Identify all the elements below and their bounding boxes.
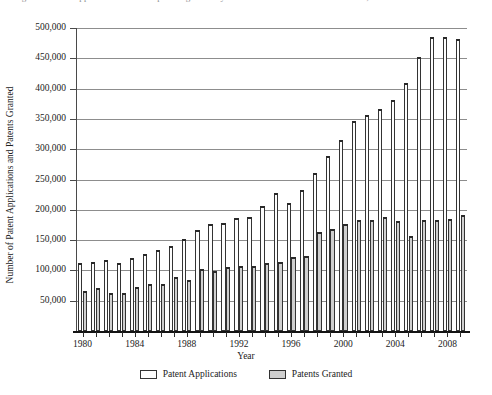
- x-axis-tick: [395, 332, 396, 337]
- bar-cap: [148, 284, 152, 286]
- gridline: [76, 119, 467, 120]
- y-axis-tick-label-text: 350,000: [4, 114, 66, 124]
- bar-cap: [239, 266, 243, 268]
- bar-applications-1987: [169, 246, 173, 331]
- bar-applications-2006: [417, 57, 421, 331]
- gridline: [76, 180, 467, 181]
- bar-applications-1982: [104, 260, 108, 332]
- x-axis-tick: [122, 332, 123, 337]
- bar-applications-1995: [274, 193, 278, 331]
- bar-applications-2003: [378, 109, 382, 331]
- bar-applications-2001: [352, 121, 356, 331]
- bar-cap: [313, 173, 317, 175]
- y-axis-tick-label-text: 150,000: [4, 235, 66, 245]
- bar-cap: [417, 57, 421, 59]
- bar-cap: [396, 221, 400, 223]
- y-axis-tick-label: 300,000: [0, 144, 66, 154]
- bar-applications-1984: [130, 258, 134, 331]
- x-axis-tick: [109, 332, 110, 337]
- bar-granted-1985: [148, 284, 152, 331]
- bar-cap: [422, 220, 426, 222]
- bar-cap: [83, 291, 87, 293]
- y-axis-tick: [70, 210, 76, 211]
- bar-granted-2003: [383, 217, 387, 331]
- x-axis-tick: [382, 332, 383, 337]
- bar-granted-1999: [330, 229, 334, 331]
- bar-granted-1997: [304, 256, 308, 331]
- x-axis-title: Year: [0, 351, 492, 361]
- x-axis-tick: [148, 332, 149, 337]
- x-axis-tick-label: 2004: [375, 339, 415, 349]
- bar-applications-1992: [234, 218, 238, 331]
- x-axis-tick: [265, 332, 266, 337]
- bar-granted-1986: [161, 284, 165, 331]
- legend-label-applications: Patent Applications: [163, 369, 237, 379]
- bar-cap: [352, 121, 356, 123]
- y-axis-tick-label-text: 450,000: [4, 53, 66, 63]
- bar-cap: [104, 260, 108, 262]
- bar-granted-1994: [265, 263, 269, 331]
- bar-cap: [300, 190, 304, 192]
- x-axis-tick: [330, 332, 331, 337]
- x-axis-tick: [174, 332, 175, 337]
- x-axis-tick: [187, 332, 188, 337]
- bar-cap: [378, 109, 382, 111]
- bar-granted-2008: [448, 219, 452, 331]
- legend-item-applications: Patent Applications: [140, 369, 237, 379]
- y-axis-tick-label: 50,000: [0, 296, 66, 306]
- x-axis-tick: [83, 332, 84, 337]
- y-axis-tick-label-text: 500,000: [4, 23, 66, 33]
- bar-cap: [317, 232, 321, 234]
- bar-cap: [117, 263, 121, 265]
- bar-cap: [156, 250, 160, 252]
- bar-granted-1992: [239, 266, 243, 331]
- x-axis-tick: [161, 332, 162, 337]
- y-axis-tick-label: 100,000: [0, 265, 66, 275]
- bar-granted-1995: [278, 262, 282, 331]
- bar-cap: [365, 115, 369, 117]
- y-axis-tick-label: 350,000: [0, 114, 66, 124]
- y-axis-tick: [70, 240, 76, 241]
- bar-granted-1990: [213, 271, 217, 331]
- x-axis-tick: [213, 332, 214, 337]
- bar-granted-2001: [357, 220, 361, 332]
- bar-cap: [226, 267, 230, 269]
- x-axis-tick: [200, 332, 201, 337]
- y-axis-tick-label-text: 400,000: [4, 84, 66, 94]
- bar-granted-1988: [187, 280, 191, 331]
- y-axis-line: [76, 28, 77, 332]
- bar-granted-1987: [174, 277, 178, 331]
- bar-applications-2002: [365, 115, 369, 331]
- bar-cap: [274, 193, 278, 195]
- bar-granted-1982: [109, 293, 113, 331]
- x-axis-tick: [226, 332, 227, 337]
- x-axis-line: [73, 331, 470, 333]
- bar-cap: [304, 256, 308, 258]
- bar-cap: [409, 236, 413, 238]
- bar-cap: [135, 287, 139, 289]
- bar-cap: [161, 284, 165, 286]
- bar-cap: [287, 203, 291, 205]
- legend-swatch-granted-icon: [269, 370, 286, 379]
- bar-applications-1999: [326, 156, 330, 331]
- y-axis-tick-label-text: 250,000: [4, 175, 66, 185]
- bar-granted-2004: [396, 221, 400, 331]
- bar-applications-1988: [182, 239, 186, 331]
- bar-granted-1984: [135, 287, 139, 331]
- bar-cap: [326, 156, 330, 158]
- legend-item-granted: Patents Granted: [269, 369, 352, 379]
- bar-cap: [430, 37, 434, 39]
- x-axis-tick-label: 1980: [63, 339, 103, 349]
- y-axis-tick-label: 400,000: [0, 84, 66, 94]
- bar-cap: [291, 257, 295, 259]
- bar-granted-2006: [422, 220, 426, 331]
- bar-cap: [448, 219, 452, 221]
- bar-applications-2009: [456, 39, 460, 331]
- gridline: [76, 149, 467, 150]
- bar-applications-2004: [391, 100, 395, 331]
- bar-cap: [357, 220, 361, 222]
- bar-granted-2002: [370, 220, 374, 332]
- y-axis-tick: [70, 89, 76, 90]
- bar-cap: [187, 280, 191, 282]
- bar-cap: [122, 293, 126, 295]
